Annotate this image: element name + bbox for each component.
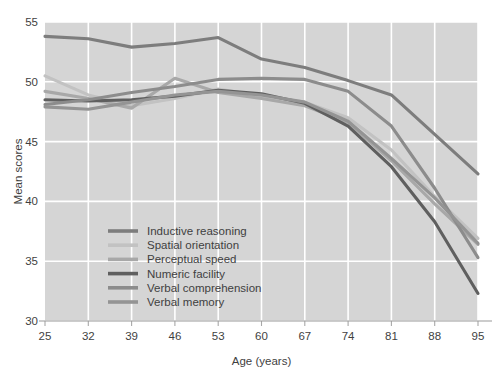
- x-tick-label: 74: [342, 330, 355, 342]
- legend-label: Spatial orientation: [147, 239, 239, 251]
- y-tick-label: 55: [25, 16, 38, 28]
- x-tick-label: 88: [428, 330, 441, 342]
- x-tick-label: 39: [125, 330, 138, 342]
- x-axis-tick-labels: 2532394653606774818895: [39, 330, 485, 342]
- y-tick-label: 45: [25, 136, 38, 148]
- x-axis-title: Age (years): [232, 355, 292, 367]
- y-tick-label: 50: [25, 76, 38, 88]
- legend-label: Numeric facility: [147, 268, 225, 280]
- y-tick-label: 40: [25, 195, 38, 207]
- y-axis-title: Mean scores: [12, 138, 24, 204]
- legend-label: Verbal comprehension: [147, 282, 261, 294]
- x-tick-label: 60: [255, 330, 268, 342]
- y-tick-label: 35: [25, 255, 38, 267]
- x-tick-label: 25: [39, 330, 52, 342]
- legend-label: Verbal memory: [147, 296, 225, 308]
- legend-label: Perceptual speed: [147, 253, 237, 265]
- legend-label: Inductive reasoning: [147, 225, 247, 237]
- y-axis-tick-labels: 303540455055: [25, 16, 38, 327]
- x-tick-label: 95: [472, 330, 485, 342]
- x-tick-label: 46: [169, 330, 182, 342]
- x-tick-label: 53: [212, 330, 225, 342]
- x-tick-label: 67: [298, 330, 311, 342]
- line-chart-figure: 303540455055 2532394653606774818895 Indu…: [0, 0, 500, 379]
- y-tick-label: 30: [25, 315, 38, 327]
- x-tick-label: 81: [385, 330, 398, 342]
- x-tick-label: 32: [82, 330, 95, 342]
